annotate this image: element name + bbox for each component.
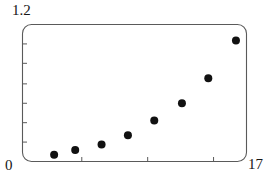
- x-axis-ticks: [82, 157, 214, 162]
- data-point: [178, 99, 186, 107]
- data-point: [71, 146, 79, 154]
- data-point: [50, 151, 58, 159]
- data-point-group: [50, 36, 240, 158]
- scatter-plot-figure: 1.2 0 17: [0, 0, 264, 178]
- x-axis-max-label: 17: [248, 157, 263, 172]
- y-axis-min-label: 0: [5, 158, 13, 173]
- data-point: [98, 140, 106, 148]
- plot-canvas: [0, 0, 264, 178]
- data-point: [150, 116, 158, 124]
- plot-frame: [23, 25, 247, 162]
- data-point: [232, 36, 240, 44]
- data-point: [124, 131, 132, 139]
- plot-border: [23, 25, 247, 162]
- y-axis-ticks: [23, 44, 28, 142]
- y-axis-max-label: 1.2: [12, 3, 31, 18]
- data-point: [204, 74, 212, 82]
